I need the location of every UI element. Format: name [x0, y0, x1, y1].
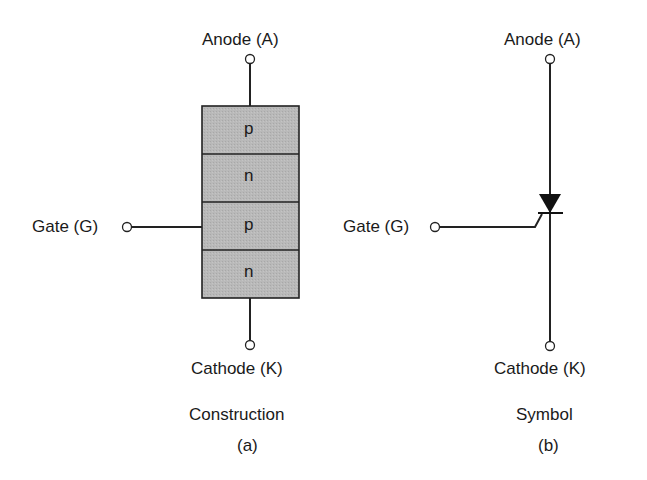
sublabel-a: (a): [237, 436, 258, 456]
anode-label-a: Anode (A): [202, 30, 279, 50]
anode-terminal-icon: [246, 55, 255, 64]
diode-triangle-icon: [539, 194, 561, 213]
cathode-terminal-icon: [546, 342, 555, 351]
caption-symbol: Symbol: [516, 405, 573, 425]
gate-lead: [439, 214, 542, 227]
layer-label-n2: n: [244, 262, 253, 282]
cathode-label-a: Cathode (K): [191, 359, 283, 379]
anode-terminal-icon: [546, 55, 555, 64]
cathode-terminal-icon: [246, 341, 255, 350]
caption-construction: Construction: [189, 405, 284, 425]
gate-terminal-icon: [431, 223, 440, 232]
cathode-label-b: Cathode (K): [494, 359, 586, 379]
construction-diagram: [123, 55, 300, 350]
layer-label-p2: p: [244, 215, 253, 235]
anode-label-b: Anode (A): [504, 30, 581, 50]
layer-label-n1: n: [244, 166, 253, 186]
layer-label-p1: p: [244, 119, 253, 139]
gate-terminal-icon: [123, 223, 132, 232]
scr-symbol: [431, 55, 564, 351]
sublabel-b: (b): [538, 436, 559, 456]
gate-label-b: Gate (G): [343, 217, 409, 237]
gate-label-a: Gate (G): [32, 217, 98, 237]
